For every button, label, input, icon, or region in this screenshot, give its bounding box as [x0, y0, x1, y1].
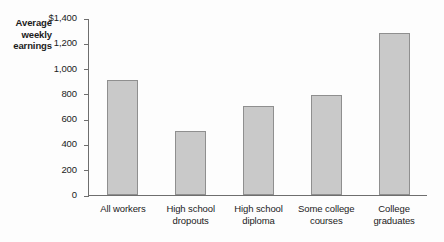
- y-axis-tick: 800: [84, 94, 89, 95]
- y-axis-tick-label: 200: [61, 164, 77, 175]
- y-axis-tick-label: 0: [72, 189, 77, 200]
- x-axis-line: [88, 195, 427, 196]
- y-axis-tick-label: 1,000: [54, 63, 77, 74]
- y-axis-tick: 1,000: [84, 69, 89, 70]
- x-axis-category-label: Collegegraduates: [352, 203, 436, 226]
- y-axis-tick: 600: [84, 120, 89, 121]
- y-axis-title-line-1: Average: [0, 17, 52, 29]
- plot-area: $1,4001,2001,0008006004002000: [88, 19, 427, 196]
- bar: [107, 80, 138, 195]
- bar-chart-figure: Average weekly earnings $1,4001,2001,000…: [0, 0, 444, 242]
- bar: [243, 106, 274, 195]
- x-axis-category-label-line: graduates: [352, 215, 436, 227]
- y-axis-tick-label: $1,400: [49, 12, 77, 23]
- bar: [175, 131, 206, 195]
- y-axis-tick: 400: [84, 145, 89, 146]
- y-axis-tick-label: 1,200: [54, 37, 77, 48]
- y-axis-title-line-2: weekly: [0, 29, 52, 41]
- y-axis-tick: 0: [84, 196, 89, 197]
- y-axis-title-line-3: earnings: [0, 40, 52, 52]
- bar: [311, 95, 342, 196]
- bar: [379, 33, 410, 195]
- y-axis-tick: 200: [84, 170, 89, 171]
- x-axis-category-label-line: College: [352, 203, 436, 215]
- y-axis-title: Average weekly earnings: [0, 17, 52, 52]
- y-axis-tick: $1,400: [84, 19, 89, 20]
- y-axis-tick-label: 400: [61, 138, 77, 149]
- y-axis-tick-label: 800: [61, 88, 77, 99]
- y-axis-tick-label: 600: [61, 113, 77, 124]
- y-axis-tick: 1,200: [84, 44, 89, 45]
